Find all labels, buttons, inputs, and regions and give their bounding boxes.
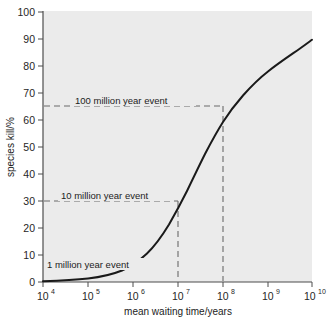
species-kill-vs-waiting-time-chart: 0 10 20 30 40 50 60 70 80 90 100 10 4 10… [0, 0, 329, 320]
x-tick-exponent: 8 [231, 288, 235, 295]
annotation-label-10-million-year-event: 10 million year event [61, 190, 148, 201]
x-tick-label: 10 [217, 290, 229, 302]
y-tick-label: 20 [23, 222, 35, 234]
y-tick-label: 0 [29, 276, 35, 288]
y-tick-label: 90 [23, 33, 35, 45]
y-tick-label: 40 [23, 168, 35, 180]
x-tick-exponent: 7 [186, 288, 190, 295]
x-tick-label: 10 [37, 290, 49, 302]
x-tick-label: 10 [262, 290, 274, 302]
annotation-label-1-million-year-event: 1 million year event [47, 259, 129, 270]
y-tick-label: 30 [23, 195, 35, 207]
annotation-label-100-million-year-event: 100 million year event [75, 95, 168, 106]
x-tick-exponent: 6 [141, 288, 145, 295]
chart-figure: 0 10 20 30 40 50 60 70 80 90 100 10 4 10… [0, 0, 329, 320]
y-tick-label: 70 [23, 87, 35, 99]
y-tick-label: 80 [23, 60, 35, 72]
y-tick-label: 60 [23, 114, 35, 126]
x-tick-label: 10 [82, 290, 94, 302]
x-tick-exponent: 10 [318, 288, 326, 295]
x-axis-title: mean waiting time/years [124, 306, 232, 317]
x-tick-exponent: 4 [51, 288, 55, 295]
x-tick-label: 10 [172, 290, 184, 302]
y-axis-title: species kill/% [5, 117, 16, 177]
y-tick-label: 10 [23, 249, 35, 261]
x-tick-label: 10 [127, 290, 139, 302]
x-tick-label: 10 [304, 290, 316, 302]
x-tick-exponent: 9 [276, 288, 280, 295]
y-tick-label: 100 [17, 6, 35, 18]
y-tick-label: 50 [23, 141, 35, 153]
x-tick-exponent: 5 [96, 288, 100, 295]
